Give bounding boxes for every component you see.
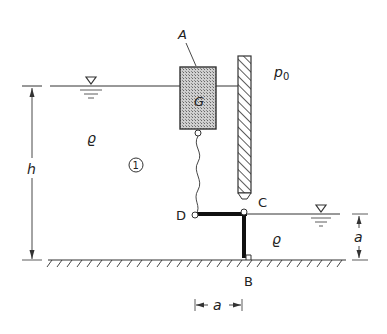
- dimension-a-bottom: a: [195, 297, 242, 313]
- region-1-marker: 1: [129, 158, 143, 172]
- label-A: A: [177, 27, 187, 42]
- label-rho-right: ϱ: [272, 231, 281, 247]
- dimension-a-right: a: [352, 214, 368, 260]
- label-p0-subscript: 0: [283, 71, 289, 82]
- label-D: D: [176, 208, 186, 223]
- hatched-ground-icon: [22, 260, 346, 267]
- label-G: G: [194, 94, 204, 109]
- hatched-wall-icon: [238, 56, 251, 199]
- label-h: h: [27, 161, 36, 177]
- water-surface-triangle-icon: [80, 77, 102, 98]
- label-C: C: [258, 195, 267, 210]
- dimension-h: h: [27, 88, 36, 259]
- label-a-bottom: a: [213, 297, 222, 313]
- label-rho-left: ϱ: [87, 130, 96, 146]
- hinge-icon-C: [241, 209, 247, 215]
- label-p0: p: [273, 64, 283, 80]
- l-shaped-gate: [196, 214, 251, 260]
- label-a-right: a: [354, 229, 363, 245]
- hinge-icon-D: [192, 212, 198, 218]
- label-B: B: [244, 274, 253, 289]
- svg-text:1: 1: [133, 160, 139, 171]
- hydrostatics-diagram: A G p 0 ϱ 1 h: [0, 0, 387, 334]
- rope: [196, 136, 200, 214]
- floating-body-A: A G: [177, 27, 216, 136]
